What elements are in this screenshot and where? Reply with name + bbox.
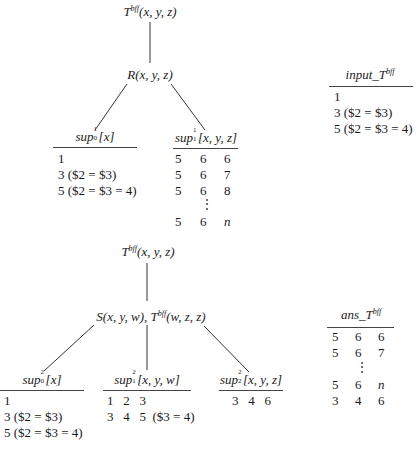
table-row: 5 ($2 = $3 = 4) bbox=[334, 121, 413, 137]
tree2-sup1-rule bbox=[103, 390, 191, 391]
sup-subscript: 1 bbox=[132, 377, 136, 385]
table-cell: 7 bbox=[224, 167, 231, 183]
sup-superscript: 1 bbox=[193, 126, 197, 134]
table-row: 1 bbox=[334, 89, 341, 105]
sup-subscript: 0 bbox=[94, 134, 98, 142]
tree1-sup0-header: sup10[x] bbox=[76, 129, 115, 145]
table-row: 3 4 5 ($3 = 4) bbox=[107, 409, 195, 425]
tree1-sup0-rule bbox=[53, 147, 137, 148]
tree2-root-node: Tbff(x, y, z) bbox=[121, 244, 174, 260]
tree2-sup2-rule bbox=[219, 390, 283, 391]
table-cell: 6 bbox=[378, 393, 385, 409]
pred-args: (x, y, z) bbox=[137, 244, 175, 259]
table-cell: 5 bbox=[175, 183, 182, 199]
tree1-sup1-rule bbox=[173, 148, 238, 149]
table-cell: 6 bbox=[355, 345, 362, 361]
tree2-sup1-header: sup21[x, y, w] bbox=[114, 372, 180, 388]
pred-args: (w, z, z) bbox=[166, 309, 205, 324]
sup-name: sup bbox=[23, 372, 41, 387]
pred-args: (x, y, z) bbox=[135, 67, 173, 82]
table-row: 3 ($2 = $3) bbox=[58, 167, 116, 183]
input-table-rule bbox=[329, 86, 413, 87]
table-cell: 7 bbox=[378, 345, 385, 361]
pred-args: (x, y, w), bbox=[103, 309, 151, 324]
table-row: 3 ($2 = $3) bbox=[4, 409, 62, 425]
sup-name: sup bbox=[175, 130, 193, 145]
table-cell: 5 bbox=[332, 345, 339, 361]
adornment: bff bbox=[386, 67, 394, 76]
table-cell: 6 bbox=[224, 151, 231, 167]
sup-args: [x, y, w] bbox=[137, 372, 180, 387]
sup-args: [x] bbox=[99, 129, 115, 144]
sup-name: sup bbox=[220, 372, 238, 387]
table-cell: 5 bbox=[332, 329, 339, 345]
ans-table-rule bbox=[327, 327, 394, 328]
tree1-root-node: Tbff(x, y, z) bbox=[123, 4, 176, 20]
pred-name: R bbox=[127, 67, 135, 82]
sup-subscript: 2 bbox=[238, 377, 242, 385]
sup-subscript: 0 bbox=[41, 377, 45, 385]
table-cell: 6 bbox=[355, 329, 362, 345]
sup-superscript: 1 bbox=[94, 125, 98, 133]
adornment: bff bbox=[131, 4, 139, 13]
tree1-child-node: R(x, y, z) bbox=[127, 67, 173, 83]
tree1-sup1-header: sup11[x, y, z] bbox=[175, 130, 237, 146]
vertical-ellipsis: ⋮ bbox=[201, 197, 213, 212]
table-row: 1 bbox=[4, 393, 11, 409]
adornment: bff bbox=[158, 309, 166, 318]
sup-name: sup bbox=[76, 129, 94, 144]
table-cell: 5 bbox=[175, 214, 182, 230]
sup-subscript: 1 bbox=[193, 135, 197, 143]
sup-name: sup bbox=[114, 372, 132, 387]
table-cell: 3 bbox=[332, 393, 339, 409]
table-cell: 5 bbox=[175, 167, 182, 183]
table-cell: 8 bbox=[224, 183, 231, 199]
table-cell: 5 bbox=[175, 151, 182, 167]
table-cell: n bbox=[224, 214, 231, 230]
table-cell: 6 bbox=[355, 377, 362, 393]
table-row: 5 ($2 = $3 = 4) bbox=[58, 183, 137, 199]
sup-args: [x, y, z] bbox=[198, 130, 237, 145]
vertical-ellipsis: ⋮ bbox=[356, 360, 368, 375]
input-table-header: input_Tbff bbox=[346, 67, 395, 83]
table-cell: 4 bbox=[355, 393, 362, 409]
sup-superscript: 2 bbox=[41, 368, 45, 376]
table-row: 1 bbox=[58, 151, 65, 167]
tree2-sup0-rule bbox=[0, 390, 84, 391]
tree2-sup0-header: sup20[x] bbox=[23, 372, 62, 388]
table-name: ans_T bbox=[341, 307, 373, 322]
ans-table-header: ans_Tbff bbox=[341, 307, 381, 323]
table-cell: 6 bbox=[200, 214, 207, 230]
table-row: 3 ($2 = $3) bbox=[334, 105, 392, 121]
table-row: 5 ($2 = $3 = 4) bbox=[4, 425, 83, 441]
table-row: 3 4 6 bbox=[232, 393, 271, 409]
sup-args: [x, y, z] bbox=[243, 372, 282, 387]
table-cell: n bbox=[378, 377, 385, 393]
tree2-sup2-header: sup22[x, y, z] bbox=[220, 372, 282, 388]
pred-args: (x, y, z) bbox=[139, 4, 177, 19]
table-cell: 6 bbox=[200, 151, 207, 167]
sup-superscript: 2 bbox=[238, 368, 242, 376]
table-cell: 5 bbox=[332, 377, 339, 393]
adornment: bff bbox=[129, 244, 137, 253]
sup-args: [x] bbox=[46, 372, 62, 387]
table-cell: 6 bbox=[378, 329, 385, 345]
tree2-child-node: S(x, y, w), Tbff(w, z, z) bbox=[96, 309, 205, 325]
table-name: input_T bbox=[346, 67, 386, 82]
table-cell: 6 bbox=[200, 167, 207, 183]
sup-superscript: 2 bbox=[132, 368, 136, 376]
table-row: 1 2 3 bbox=[107, 393, 146, 409]
adornment: bff bbox=[373, 307, 381, 316]
